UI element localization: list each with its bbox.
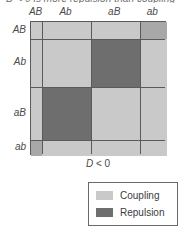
matrix-cell-aB-AB [31, 87, 42, 140]
legend-swatch-repulsion-icon [96, 208, 113, 217]
column-header-Ab: Ab [46, 6, 86, 17]
row-header-Ab: Ab [14, 56, 26, 67]
legend-label-repulsion: Repulsion [120, 208, 164, 218]
gridline-vertical [42, 22, 43, 154]
matrix-cell-ab-AB [31, 140, 42, 156]
gridline-vertical [91, 22, 92, 154]
matrix-cell-AB-AB [31, 22, 42, 39]
gridline-horizontal [31, 140, 165, 141]
gamete-matrix [30, 21, 166, 155]
matrix-cell-AB-ab [140, 22, 167, 39]
gridline-horizontal [31, 39, 165, 40]
column-header-aB: aB [94, 6, 134, 17]
matrix-cell-Ab-AB [31, 39, 42, 87]
matrix-cell-AB-aB [91, 22, 140, 39]
matrix-cell-Ab-Ab [42, 39, 91, 87]
row-headers: ABAbaBab [0, 21, 29, 155]
column-header-ab: ab [132, 6, 172, 17]
column-headers: ABAbaBab [30, 6, 166, 20]
row-header-AB: AB [13, 24, 26, 35]
gridline-horizontal [31, 87, 165, 88]
matrix-cell-Ab-aB [91, 39, 140, 87]
matrix-cell-ab-ab [140, 140, 167, 156]
legend-item-coupling: Coupling [89, 187, 177, 204]
matrix-cell-ab-Ab [42, 140, 91, 156]
d-value-label: D < 0 [30, 158, 166, 169]
matrix-cell-aB-ab [140, 87, 167, 140]
figure-caption-fragment: D < 0 is more repulsion than coupling [6, 0, 187, 3]
legend-swatch-coupling-icon [96, 191, 113, 200]
matrix-cell-ab-aB [91, 140, 140, 156]
legend-label-coupling: Coupling [120, 191, 159, 201]
legend: CouplingRepulsion [88, 182, 178, 226]
gridline-vertical [140, 22, 141, 154]
row-header-aB: aB [14, 107, 26, 118]
matrix-cell-aB-aB [91, 87, 140, 140]
d-relation: < 0 [93, 158, 110, 169]
matrix-cell-Ab-ab [140, 39, 167, 87]
row-header-ab: ab [15, 141, 26, 152]
legend-item-repulsion: Repulsion [89, 204, 177, 221]
matrix-cell-AB-Ab [42, 22, 91, 39]
matrix-cell-aB-Ab [42, 87, 91, 140]
